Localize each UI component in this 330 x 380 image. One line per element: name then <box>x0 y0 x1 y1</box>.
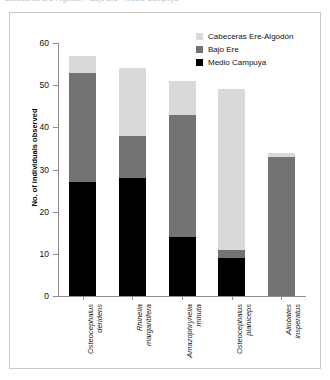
y-axis-title: No. of individuals observed <box>30 88 39 228</box>
y-tick-mark <box>53 170 58 171</box>
x-label-line: minuta <box>195 304 204 358</box>
x-label-line: margaritifera <box>145 304 154 346</box>
bar-segment <box>69 73 96 183</box>
x-axis-label: Amazophrynellaminuta <box>186 304 203 358</box>
bar-2 <box>119 68 146 296</box>
x-tick-mark <box>132 296 133 300</box>
x-tick-mark <box>281 296 282 300</box>
plot-area: No. of individuals observed 010203040506… <box>10 13 322 370</box>
y-tick-label: 20 <box>40 208 49 216</box>
legend-swatch-icon <box>196 46 203 53</box>
bar-segment <box>169 115 196 237</box>
x-tick-mark <box>83 296 84 300</box>
bar-1 <box>69 56 96 296</box>
legend-swatch-icon <box>196 59 203 66</box>
legend-item-bajo[interactable]: Bajo Ere <box>196 44 293 54</box>
y-tick-label: 40 <box>40 123 49 131</box>
clipped-header-text: Cabeceras Ere-Algodón · Bajo Ere · Medio… <box>4 0 326 5</box>
y-tick-mark <box>53 43 58 44</box>
bar-segment <box>218 258 245 296</box>
y-tick-label: 60 <box>40 39 49 47</box>
x-label-line: Osteocephalus <box>236 304 245 354</box>
legend: Cabeceras Ere-AlgodónBajo EreMedio Campu… <box>196 31 293 70</box>
x-axis-label: Rhinellamargaritifera <box>136 304 153 346</box>
bar-segment <box>119 136 146 178</box>
legend-item-cabeceras[interactable]: Cabeceras Ere-Algodón <box>196 31 293 41</box>
bar-4 <box>218 89 245 296</box>
x-axis-label: Allobatesinsperatus <box>285 304 302 339</box>
y-tick-label: 10 <box>40 250 49 258</box>
x-axis-label: Osteocephalusplaniceps <box>236 304 253 354</box>
x-tick-mark <box>182 296 183 300</box>
legend-swatch-icon <box>196 33 203 40</box>
legend-label: Cabeceras Ere-Algodón <box>208 32 293 41</box>
y-tick-label: 50 <box>40 81 49 89</box>
x-label-line: insperatus <box>294 304 303 339</box>
y-tick-mark <box>53 296 58 297</box>
bar-segment <box>119 68 146 135</box>
x-tick-mark <box>232 296 233 300</box>
bar-segment <box>69 182 96 296</box>
figure-frame: No. of individuals observed 010203040506… <box>9 12 321 369</box>
legend-label: Bajo Ere <box>208 45 239 54</box>
bar-segment <box>218 89 245 249</box>
x-axis-label: Osteocephalusderidens <box>87 304 104 354</box>
y-tick-mark <box>53 254 58 255</box>
y-tick-label: 30 <box>40 166 49 174</box>
bar-segment <box>169 81 196 115</box>
legend-item-medio[interactable]: Medio Campuya <box>196 57 293 67</box>
bar-segment <box>268 153 295 157</box>
y-tick-mark <box>53 85 58 86</box>
bar-segment <box>218 250 245 258</box>
bar-segment <box>119 178 146 296</box>
x-label-line: planiceps <box>244 304 253 354</box>
y-tick-mark <box>53 127 58 128</box>
bar-3 <box>169 81 196 296</box>
bar-segment <box>268 157 295 296</box>
y-tick-label: 0 <box>44 292 49 300</box>
y-tick-mark <box>53 212 58 213</box>
x-label-line: deridens <box>95 304 104 354</box>
legend-label: Medio Campuya <box>208 58 266 67</box>
bar-5 <box>268 153 295 296</box>
y-axis-line <box>58 43 59 296</box>
bar-segment <box>169 237 196 296</box>
bar-segment <box>69 56 96 73</box>
